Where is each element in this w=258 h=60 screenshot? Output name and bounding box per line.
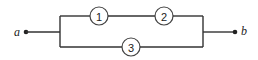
- network-diagram: a 1 2 3 b: [0, 0, 258, 60]
- element-1: 1: [90, 7, 108, 25]
- element-2: 2: [155, 7, 173, 25]
- terminal-b-node: [233, 30, 238, 35]
- terminal-a-label: a: [14, 25, 20, 39]
- element-2-label: 2: [161, 11, 167, 23]
- terminal-b-label: b: [241, 24, 247, 38]
- element-3-label: 3: [128, 42, 134, 54]
- element-1-label: 1: [96, 11, 102, 23]
- element-3: 3: [122, 38, 140, 56]
